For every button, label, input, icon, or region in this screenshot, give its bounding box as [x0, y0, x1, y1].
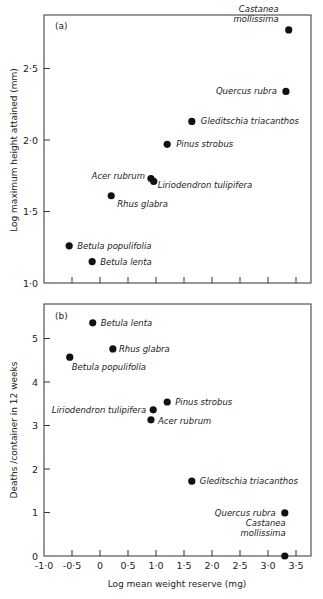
dot-marker — [164, 141, 171, 148]
dot-marker — [147, 416, 154, 423]
dot-marker — [281, 552, 288, 559]
data-point: Acer rubrum — [147, 416, 211, 426]
point-label: Betula lenta — [100, 257, 152, 267]
y-tick-label: 2·5 — [23, 63, 38, 74]
panel-a-y-axis-label: Log maximum height attained (mm) — [9, 68, 19, 232]
panel-b-x-ticks: -1·0-0·500·51·01·52·02·53·03·5 — [35, 550, 304, 571]
data-point: Betula lenta — [89, 257, 152, 267]
y-tick-label: 1 — [32, 507, 38, 518]
panel-b-deaths-vs-reserve: (b) 012345 -1·0-0·500·51·01·52·02·53·03·… — [9, 304, 311, 589]
point-label: Rhus glabra — [119, 344, 170, 354]
point-label: Rhus glabra — [117, 199, 168, 209]
data-point: Rhus glabra — [109, 344, 169, 354]
dot-marker — [281, 509, 288, 516]
x-tick-label: 0·5 — [120, 560, 135, 571]
data-point: Castaneamollissima — [241, 518, 289, 560]
x-axis-label: Log mean weight reserve (mg) — [108, 579, 247, 589]
figure: (a) 1·01·52·02·5 CastaneamollissimaQuerc… — [0, 0, 323, 599]
dot-marker — [188, 118, 195, 125]
panel-a-height-vs-reserve: (a) 1·01·52·02·5 CastaneamollissimaQuerc… — [9, 4, 311, 289]
x-tick-label: 3·5 — [288, 560, 303, 571]
dot-marker — [66, 242, 73, 249]
dot-marker — [109, 345, 116, 352]
point-label: Castanea — [239, 4, 279, 14]
data-point: Liriodendron tulipifera — [52, 405, 157, 415]
data-point: Acer rubrum — [91, 171, 155, 183]
panel-a-tag: (a) — [55, 21, 68, 31]
x-tick-label: -0·5 — [63, 560, 82, 571]
panel-b-tag: (b) — [55, 311, 68, 321]
panel-b-y-ticks: 012345 — [32, 333, 50, 562]
dot-marker — [108, 192, 115, 199]
y-tick-label: 4 — [32, 377, 38, 388]
point-label: Gleditschia triacanthos — [200, 476, 299, 486]
data-point: Liriodendron tulipifera — [150, 178, 252, 191]
point-label: Acer rubrum — [157, 416, 211, 426]
point-label: mollissima — [233, 14, 278, 24]
point-label: Pinus strobus — [175, 397, 233, 407]
x-tick-label: 2·5 — [232, 560, 247, 571]
point-label: Quercus rubra — [216, 86, 277, 96]
dot-marker — [66, 354, 73, 361]
point-label: Betula populifolia — [72, 362, 146, 372]
y-tick-label: 3 — [32, 420, 38, 431]
x-tick-label: 0 — [97, 560, 103, 571]
data-point: Quercus rubra — [216, 86, 290, 96]
x-tick-label: 1·0 — [148, 560, 163, 571]
dot-marker — [150, 178, 157, 185]
dot-marker — [89, 319, 96, 326]
panel-a-points: CastaneamollissimaQuercus rubraGleditsch… — [66, 4, 300, 267]
point-label: Betula populifolia — [77, 241, 151, 251]
panel-b-y-axis-label: Deaths /container in 12 weeks — [9, 361, 19, 498]
data-point: Betula lenta — [89, 318, 152, 328]
y-tick-label: 1·0 — [23, 278, 38, 289]
point-label: Liriodendron tulipifera — [158, 180, 252, 190]
point-label: mollissima — [241, 528, 286, 538]
dot-marker — [285, 26, 292, 33]
point-label: Gleditschia triacanthos — [201, 116, 300, 126]
point-label: Betula lenta — [101, 318, 153, 328]
dot-marker — [282, 88, 289, 95]
panel-a-y-ticks: 1·01·52·02·5 — [23, 63, 50, 289]
data-point: Pinus strobus — [164, 139, 234, 149]
dot-marker — [89, 258, 96, 265]
data-point: Pinus strobus — [164, 397, 233, 407]
data-point: Gleditschia triacanthos — [188, 116, 299, 126]
point-label: Acer rubrum — [91, 171, 145, 181]
y-tick-label: 5 — [32, 333, 38, 344]
point-label: Quercus rubra — [215, 508, 276, 518]
x-tick-label: 1·5 — [176, 560, 191, 571]
point-label: Liriodendron tulipifera — [52, 405, 146, 415]
point-label: Castanea — [246, 518, 286, 528]
panel-b-points: Betula lentaRhus glabraBetula populifoli… — [52, 318, 299, 560]
data-point: Betula populifolia — [66, 354, 146, 373]
dot-marker — [150, 406, 157, 413]
x-tick-label: -1·0 — [35, 560, 54, 571]
data-point: Gleditschia triacanthos — [188, 476, 298, 486]
y-tick-label: 1·5 — [23, 206, 38, 217]
y-tick-label: 2 — [32, 464, 38, 475]
y-tick-label: 2·0 — [23, 135, 38, 146]
point-label: Pinus strobus — [176, 139, 234, 149]
dot-marker — [188, 478, 195, 485]
data-point: Quercus rubra — [215, 508, 289, 518]
x-tick-label: 2·0 — [204, 560, 219, 571]
data-point: Castaneamollissima — [233, 4, 292, 34]
dot-marker — [164, 398, 171, 405]
panel-a-x-ticks — [72, 277, 296, 283]
x-tick-label: 3·0 — [260, 560, 275, 571]
data-point: Rhus glabra — [108, 192, 168, 209]
data-point: Betula populifolia — [66, 241, 152, 251]
